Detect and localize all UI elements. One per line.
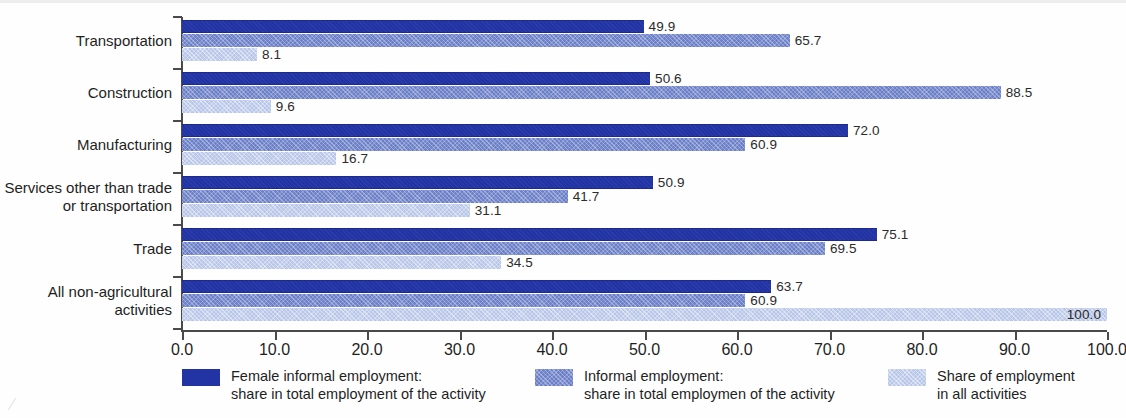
legend-label: Informal employment: share in total empl…	[584, 368, 835, 403]
bar-series-2-4[interactable]	[182, 256, 501, 269]
bar-series-0-3[interactable]	[182, 176, 653, 189]
bar-value-label: 31.1	[475, 203, 502, 218]
x-axis-tick	[645, 332, 647, 340]
bar-series-0-5[interactable]	[182, 280, 771, 293]
bar-series-2-5[interactable]	[182, 308, 1107, 321]
bar-row: 50.6	[182, 72, 1107, 85]
bar-series-0-4[interactable]	[182, 228, 877, 241]
bar-row: 31.1	[182, 204, 1107, 217]
bar-value-label: 16.7	[341, 151, 368, 166]
category-label-4: Trade	[0, 240, 172, 259]
category-label-3: Services other than trade or transportat…	[0, 179, 172, 216]
x-axis-tick	[275, 332, 277, 340]
x-axis-tick	[737, 332, 739, 340]
category-tick	[173, 120, 182, 122]
bar-chart: TransportationConstructionManufacturingS…	[0, 0, 1126, 418]
legend-swatch-icon	[182, 369, 220, 386]
bar-row: 16.7	[182, 152, 1107, 165]
bar-series-2-3[interactable]	[182, 204, 470, 217]
category-tick	[173, 68, 182, 70]
bar-value-label: 100.0	[1067, 307, 1101, 322]
bar-row: 88.5	[182, 86, 1107, 99]
bar-row: 34.5	[182, 256, 1107, 269]
bar-series-0-2[interactable]	[182, 124, 848, 137]
bar-row: 50.9	[182, 176, 1107, 189]
x-axis-tick-label: 30.0	[444, 341, 475, 359]
chart-legend: Female informal employment: share in tot…	[0, 368, 1126, 418]
bar-value-label: 60.9	[750, 293, 777, 308]
category-tick	[173, 172, 182, 174]
bar-row: 8.1	[182, 48, 1107, 61]
legend-swatch-icon	[535, 369, 573, 386]
bar-value-label: 9.6	[276, 99, 295, 114]
x-axis-tick	[552, 332, 554, 340]
x-axis-tick-label: 40.0	[536, 341, 567, 359]
bar-series-0-1[interactable]	[182, 72, 650, 85]
bar-series-1-2[interactable]	[182, 138, 745, 151]
bar-row: 60.9	[182, 294, 1107, 307]
bar-value-label: 63.7	[776, 279, 803, 294]
plot-area: 49.965.78.150.688.59.672.060.916.750.941…	[182, 18, 1107, 330]
bar-row: 49.9	[182, 20, 1107, 33]
legend-label: Female informal employment: share in tot…	[231, 368, 486, 403]
x-axis-tick-label: 80.0	[906, 341, 937, 359]
x-axis-tick-label: 10.0	[259, 341, 290, 359]
bar-row: 9.6	[182, 100, 1107, 113]
x-axis-tick	[830, 332, 832, 340]
bar-series-1-0[interactable]	[182, 34, 790, 47]
category-tick	[173, 328, 182, 330]
x-axis-tick	[460, 332, 462, 340]
x-axis-tick-label: 60.0	[721, 341, 752, 359]
bar-series-1-4[interactable]	[182, 242, 825, 255]
scan-artifact-icon	[6, 396, 32, 412]
bar-series-2-1[interactable]	[182, 100, 271, 113]
x-axis-tick-label: 100.0	[1087, 341, 1126, 359]
legend-item-2[interactable]: Share of employment in all activities	[888, 368, 1075, 403]
legend-swatch-icon	[888, 369, 926, 386]
x-axis-tick-label: 0.0	[171, 341, 193, 359]
category-label-5: All non-agricultural activities	[0, 283, 172, 320]
x-axis-tick-label: 20.0	[351, 341, 382, 359]
category-label-0: Transportation	[0, 32, 172, 51]
bar-row: 69.5	[182, 242, 1107, 255]
bar-value-label: 75.1	[882, 227, 909, 242]
x-axis-tick	[1107, 332, 1109, 340]
bar-value-label: 34.5	[506, 255, 533, 270]
bar-series-1-3[interactable]	[182, 190, 568, 203]
bar-row: 41.7	[182, 190, 1107, 203]
x-axis-tick-label: 90.0	[999, 341, 1030, 359]
bar-row: 63.7	[182, 280, 1107, 293]
bar-series-2-2[interactable]	[182, 152, 336, 165]
bar-value-label: 8.1	[262, 47, 281, 62]
legend-item-0[interactable]: Female informal employment: share in tot…	[182, 368, 486, 403]
bar-series-1-5[interactable]	[182, 294, 745, 307]
bar-series-1-1[interactable]	[182, 86, 1001, 99]
bar-value-label: 60.9	[750, 137, 777, 152]
bar-value-label: 50.6	[655, 71, 682, 86]
category-tick	[173, 16, 182, 18]
bar-row: 65.7	[182, 34, 1107, 47]
bar-value-label: 69.5	[830, 241, 857, 256]
bar-value-label: 50.9	[658, 175, 685, 190]
x-axis-tick	[182, 332, 184, 340]
x-axis-tick	[922, 332, 924, 340]
bar-value-label: 72.0	[853, 123, 880, 138]
page-top-edge	[0, 0, 1126, 3]
bar-row: 100.0	[182, 308, 1107, 321]
x-axis-tick	[367, 332, 369, 340]
bar-value-label: 88.5	[1006, 85, 1033, 100]
bar-row: 75.1	[182, 228, 1107, 241]
category-label-2: Manufacturing	[0, 136, 172, 155]
bar-row: 72.0	[182, 124, 1107, 137]
bar-value-label: 49.9	[649, 19, 676, 34]
x-axis-tick	[1015, 332, 1017, 340]
x-axis-tick-label: 50.0	[629, 341, 660, 359]
legend-item-1[interactable]: Informal employment: share in total empl…	[535, 368, 835, 403]
bar-series-0-0[interactable]	[182, 20, 644, 33]
category-tick	[173, 224, 182, 226]
x-axis-tick-label: 70.0	[814, 341, 845, 359]
bar-series-2-0[interactable]	[182, 48, 257, 61]
category-label-1: Construction	[0, 84, 172, 103]
bar-row: 60.9	[182, 138, 1107, 151]
bar-value-label: 41.7	[573, 189, 600, 204]
